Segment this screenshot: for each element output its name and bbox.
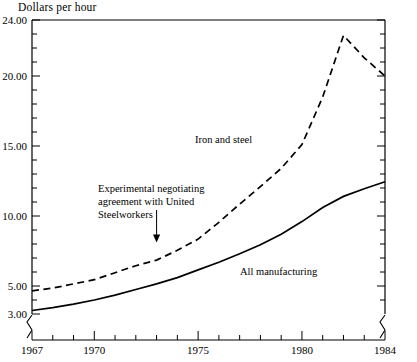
- annotation-line: Experimental negotiating: [98, 183, 205, 194]
- x-tick-label: 1984: [374, 344, 397, 356]
- y-tick-label: 5.00: [8, 280, 28, 292]
- iron-and-steel-label: Iron and steel: [195, 134, 252, 145]
- x-tick-label: 1967: [21, 344, 44, 356]
- chart-text-layer: 3.005.0010.0015.0020.0024.00196719701975…: [0, 0, 417, 362]
- x-tick-label: 1980: [291, 344, 314, 356]
- y-tick-label: 24.00: [2, 14, 27, 26]
- x-tick-label: 1970: [83, 344, 106, 356]
- y-tick-label: 15.00: [2, 140, 27, 152]
- x-tick-label: 1975: [187, 344, 210, 356]
- annotation-line: Steelworkers: [98, 209, 153, 220]
- y-tick-label: 20.00: [2, 70, 27, 82]
- annotation-line: agreement with United: [98, 196, 195, 207]
- all-manufacturing-label: All manufacturing: [240, 266, 318, 277]
- chart-figure: Dollars per hour 3.005.0010.0015.0020.00…: [0, 0, 417, 362]
- y-tick-label: 3.00: [8, 308, 28, 320]
- y-tick-label: 10.00: [2, 210, 27, 222]
